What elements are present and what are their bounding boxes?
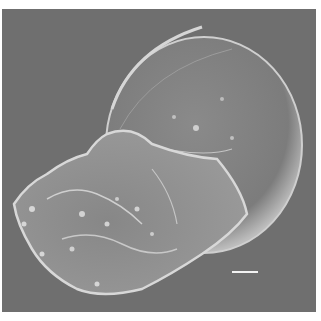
specimen-illustration — [2, 9, 316, 312]
scale-bar — [232, 271, 258, 273]
micrograph-frame — [2, 9, 316, 312]
